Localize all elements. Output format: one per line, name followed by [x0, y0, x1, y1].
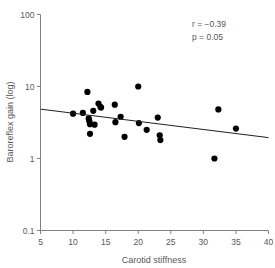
pvalue-annotation: p = 0.05 — [192, 32, 223, 42]
x-tick-label: 40 — [264, 237, 274, 247]
data-point — [135, 83, 141, 89]
data-point — [112, 102, 118, 108]
x-tick-label: 25 — [166, 237, 176, 247]
data-point — [215, 106, 221, 112]
data-point — [157, 137, 163, 143]
x-tick-label: 5 — [38, 237, 43, 247]
regression-trend-line — [41, 109, 269, 137]
y-axis-title: Baroreflex gain (log) — [5, 81, 15, 162]
data-point — [91, 122, 97, 128]
y-axis-ticks: 0.1110100 — [20, 10, 40, 236]
x-axis-title: Carotid stiffness — [122, 255, 187, 265]
x-axis-ticks: 510152025303540 — [38, 231, 273, 247]
y-tick-label: 100 — [20, 10, 34, 20]
y-tick-label: 10 — [25, 82, 35, 92]
data-point — [121, 134, 127, 140]
x-tick-label: 35 — [231, 237, 241, 247]
data-point — [155, 114, 161, 120]
x-tick-label: 10 — [68, 237, 78, 247]
data-series-points — [70, 83, 239, 161]
data-point — [144, 127, 150, 133]
data-point — [87, 131, 93, 137]
data-point — [233, 126, 239, 132]
x-tick-label: 20 — [133, 237, 143, 247]
scatter-plot-figure: 0.1110100 510152025303540 r = −0.39 p = … — [0, 0, 275, 268]
x-tick-label: 15 — [101, 237, 111, 247]
data-point — [211, 155, 217, 161]
chart-canvas: 0.1110100 510152025303540 r = −0.39 p = … — [0, 0, 275, 268]
data-point — [112, 119, 118, 125]
correlation-annotation: r = −0.39 — [192, 19, 226, 29]
data-point — [90, 108, 96, 114]
y-tick-label: 0.1 — [23, 226, 35, 236]
y-tick-label: 1 — [30, 154, 35, 164]
data-point — [84, 89, 90, 95]
x-tick-label: 30 — [199, 237, 209, 247]
data-point — [98, 104, 104, 110]
